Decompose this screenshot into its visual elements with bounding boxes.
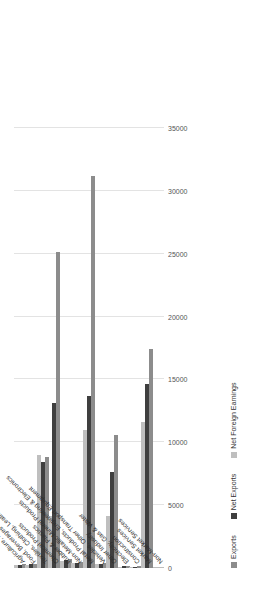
legend-label: Net Foreign Earnings (230, 383, 237, 449)
bar-chart-figure: Agriculture, Forestry & FishingFood, Bev… (0, 0, 268, 616)
rotated-figure-wrapper: Agriculture, Forestry & FishingFood, Bev… (0, 0, 268, 616)
value-axis-ticks: 05000100001500020000250003000035000 (166, 128, 206, 568)
bar-group (48, 128, 60, 568)
bar-group (141, 128, 153, 568)
tick-label: 15000 (168, 376, 187, 383)
tick-label: 5000 (168, 502, 184, 509)
legend-swatch-icon (231, 513, 237, 519)
tick-label: 20000 (168, 314, 187, 321)
bar-group (25, 128, 37, 568)
bar-group (14, 128, 26, 568)
plot-area (14, 128, 164, 568)
bar-group (129, 128, 141, 568)
bar-group (95, 128, 107, 568)
bar-group (83, 128, 95, 568)
bar-group (37, 128, 49, 568)
legend-item[interactable]: Net Exports (230, 474, 237, 520)
bar-group (118, 128, 130, 568)
legend-item[interactable]: Net Foreign Earnings (230, 383, 237, 458)
bar-group (60, 128, 72, 568)
legend-item[interactable]: Exports (230, 535, 237, 568)
legend-swatch-icon (231, 452, 237, 458)
tick-label: 10000 (168, 439, 187, 446)
bar-group (71, 128, 83, 568)
bar-group (152, 128, 164, 568)
tick-label: 25000 (168, 251, 187, 258)
tick-label: 0 (168, 565, 172, 572)
tick-label: 30000 (168, 188, 187, 195)
bar-group (106, 128, 118, 568)
legend-label: Exports (230, 535, 237, 559)
tick-label: 35000 (168, 125, 187, 132)
chart-legend: ExportsNet ExportsNet Foreign Earnings (230, 383, 237, 568)
legend-swatch-icon (231, 562, 237, 568)
legend-label: Net Exports (230, 474, 237, 511)
